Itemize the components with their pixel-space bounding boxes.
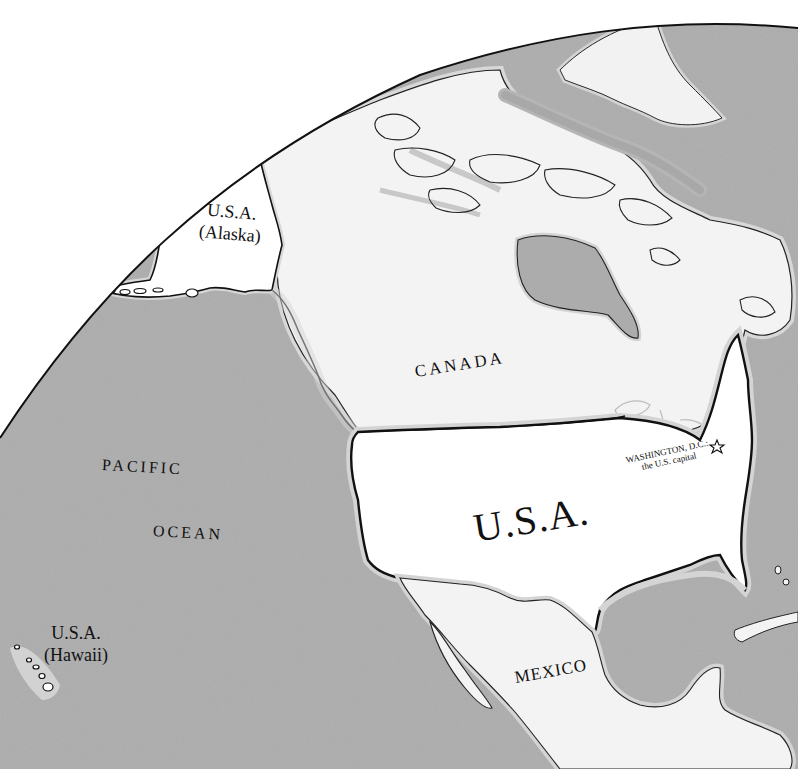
hawaii-label-line1: U.S.A. <box>44 622 108 644</box>
ocean-label: OCEAN <box>153 522 224 544</box>
hawaii-label: U.S.A. (Hawaii) <box>44 622 108 666</box>
alaska-label: U.S.A. (Alaska) <box>198 198 264 247</box>
north-america-map <box>0 0 798 769</box>
hawaii-label-line2: (Hawaii) <box>44 644 108 666</box>
